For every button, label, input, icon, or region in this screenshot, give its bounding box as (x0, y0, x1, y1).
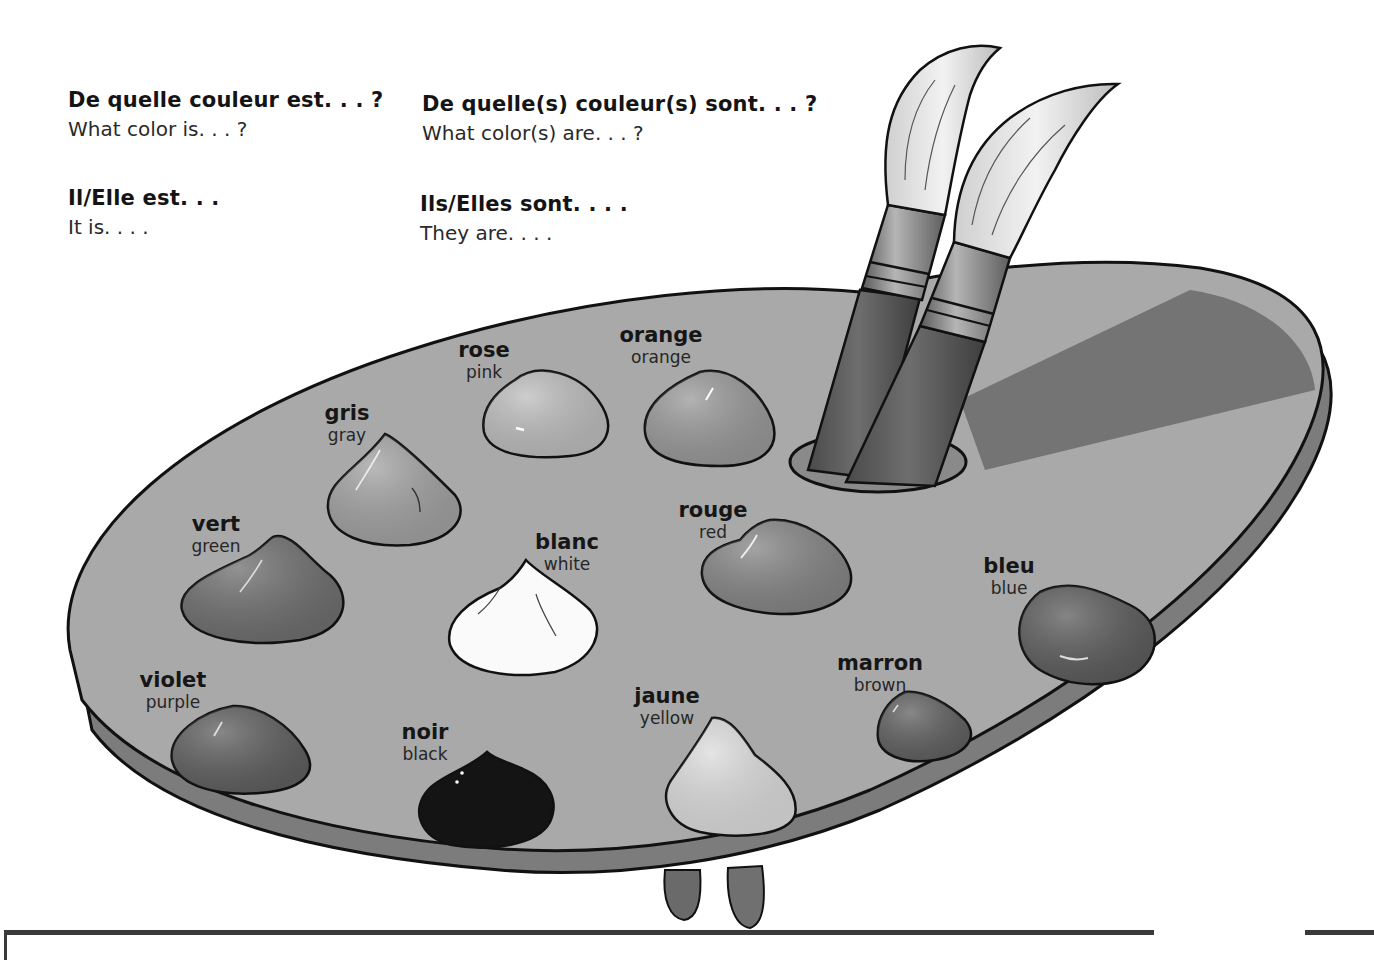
paint-label-rose: rose pink (458, 340, 510, 381)
paint-label-rouge: rouge red (678, 500, 747, 541)
paint-label-jaune: jaune yellow (634, 686, 700, 727)
paint-label-orange: orange orange (619, 325, 702, 366)
paint-label-vert: vert green (191, 514, 240, 555)
next-section-frame (4, 930, 1154, 960)
paint-label-blanc: blanc white (535, 532, 599, 573)
next-section-frame-right (1305, 930, 1374, 960)
paint-label-noir: noir black (402, 722, 449, 763)
paint-label-bleu: bleu blue (983, 556, 1034, 597)
paint-label-marron: marron brown (837, 653, 923, 694)
paint-label-violet: violet purple (140, 670, 207, 711)
brush-handle-tips (664, 866, 763, 928)
paint-label-gris: gris gray (324, 403, 369, 444)
